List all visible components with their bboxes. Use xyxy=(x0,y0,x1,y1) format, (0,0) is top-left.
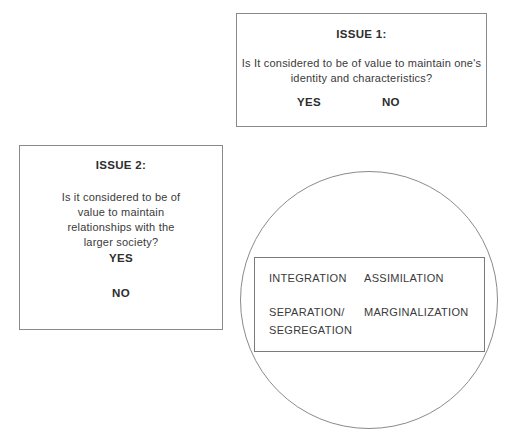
issue-1-question-line-1: Is It considered to be of value to maint… xyxy=(237,56,486,71)
issue-2-question-line-2: value to maintain xyxy=(20,205,222,220)
issue-2-box: ISSUE 2: Is it considered to be of value… xyxy=(19,145,223,330)
issue-2-question-line-3: relationships with the xyxy=(20,220,222,235)
strategies-box: INTEGRATION ASSIMILATION SEPARATION/ SEG… xyxy=(254,257,485,352)
strategy-integration: INTEGRATION xyxy=(269,269,347,287)
issue-1-question: Is It considered to be of value to maint… xyxy=(237,56,486,86)
issue-2-question-line-4: larger society? xyxy=(20,235,222,250)
strategy-separation-line-2: SEGREGATION xyxy=(269,321,352,339)
strategy-separation-line-1: SEPARATION/ xyxy=(269,303,352,321)
strategy-marginalization: MARGINALIZATION xyxy=(364,303,469,321)
issue-2-question: Is it considered to be of value to maint… xyxy=(20,190,222,250)
issue-1-box: ISSUE 1: Is It considered to be of value… xyxy=(236,13,487,127)
issue-1-question-line-2: identity and characteristics? xyxy=(237,71,486,86)
strategy-assimilation: ASSIMILATION xyxy=(364,269,444,287)
issue-2-yes: YES xyxy=(20,252,222,264)
issue-2-no: NO xyxy=(20,287,222,299)
issue-1-yes: YES xyxy=(297,96,321,108)
issue-1-no: NO xyxy=(382,96,400,108)
issue-2-title: ISSUE 2: xyxy=(20,159,222,171)
issue-1-title: ISSUE 1: xyxy=(237,28,486,40)
strategy-separation: SEPARATION/ SEGREGATION xyxy=(269,303,352,339)
issue-2-question-line-1: Is it considered to be of xyxy=(20,190,222,205)
